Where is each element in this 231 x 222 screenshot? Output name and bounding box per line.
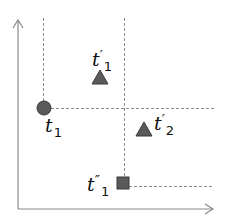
label-t-prime-2: t′2: [154, 114, 174, 133]
label-t-double-prime-1-prime: ″: [95, 172, 100, 188]
label-t-double-prime-1-sub: 1: [101, 184, 109, 199]
label-t-prime-1-sub: 1: [104, 59, 112, 74]
point-t-prime-2-triangle-icon: [136, 122, 152, 136]
label-t1-sub: 1: [54, 125, 62, 140]
label-t-prime-2-prime: ′: [162, 111, 165, 127]
label-t-prime-2-sub: 2: [166, 123, 174, 138]
label-t-double-prime-1-base: t: [87, 173, 95, 195]
label-t-prime-1: t′1: [92, 50, 112, 69]
label-t-double-prime-1: t″1: [87, 175, 109, 194]
label-t1: t1: [45, 116, 62, 135]
label-t-prime-1-prime: ′: [100, 47, 103, 63]
diagram-canvas: [0, 0, 231, 222]
point-t1-circle-icon: [37, 101, 51, 115]
point-t-double-prime-1-square-icon: [117, 177, 129, 189]
label-t-prime-1-base: t: [92, 48, 100, 70]
label-t-prime-2-base: t: [154, 112, 162, 134]
label-t1-base: t: [45, 114, 53, 136]
guide-lines: [44, 18, 215, 187]
